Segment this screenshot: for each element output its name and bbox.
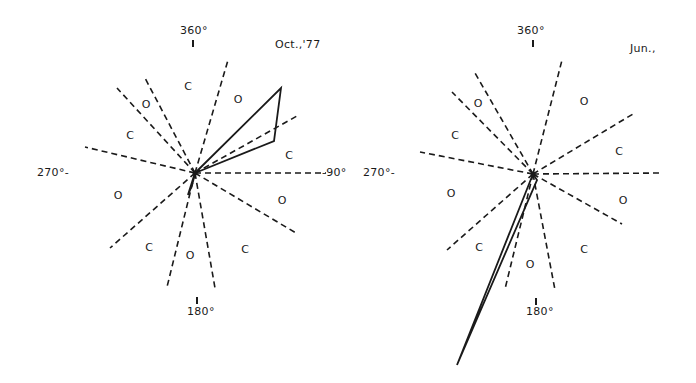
right-sector-label: O xyxy=(526,258,535,271)
left-east-label: -90° xyxy=(322,166,347,179)
right-sector-boundary-3 xyxy=(420,152,533,174)
left-sector-boundary-7 xyxy=(195,173,215,288)
right-sector-label: C xyxy=(475,241,483,254)
rose-diagram-canvas xyxy=(0,0,696,383)
left-sector-label: C xyxy=(184,80,192,93)
right-sector-boundary-7 xyxy=(533,174,555,290)
left-south-label: 180° xyxy=(187,305,215,318)
left-sector-label: O xyxy=(142,98,151,111)
left-sector-label: C xyxy=(145,241,153,254)
right-sector-boundary-9 xyxy=(447,174,533,250)
right-south-tick xyxy=(535,298,537,305)
right-sector-label: O xyxy=(474,97,483,110)
left-sector-label: O xyxy=(278,194,287,207)
left-north-tick xyxy=(192,40,194,47)
left-sector-label: C xyxy=(285,149,293,162)
right-panel-title: Jun., xyxy=(630,42,656,55)
left-sector-boundary-4 xyxy=(195,116,297,173)
left-panel-title: Oct.,'77 xyxy=(275,38,320,51)
left-sector-label: O xyxy=(234,93,243,106)
right-sector-boundary-5 xyxy=(533,173,662,174)
left-sector-label: C xyxy=(241,243,249,256)
right-sector-label: O xyxy=(447,187,456,200)
right-sector-boundary-6 xyxy=(533,174,622,224)
left-sector-label: O xyxy=(114,189,123,202)
right-sector-label: C xyxy=(615,145,623,158)
left-south-tick xyxy=(196,297,198,304)
right-sector-boundary-0 xyxy=(533,60,562,174)
right-sector-label: C xyxy=(580,243,588,256)
right-south-label: 180° xyxy=(526,305,554,318)
left-north-label: 360° xyxy=(180,24,208,37)
right-north-label: 360° xyxy=(517,24,545,37)
right-west-label: 270°- xyxy=(363,166,395,179)
right-north-tick xyxy=(532,40,534,47)
left-center-point xyxy=(193,171,198,176)
left-sector-label: C xyxy=(126,129,134,142)
right-sector-label: O xyxy=(580,95,589,108)
left-west-label: 270°- xyxy=(37,166,69,179)
left-sector-boundary-9 xyxy=(110,173,195,248)
right-center-point xyxy=(531,172,536,177)
right-sector-label: O xyxy=(619,194,628,207)
left-sector-boundary-3 xyxy=(85,147,195,173)
right-sector-label: C xyxy=(451,129,459,142)
left-sector-label: O xyxy=(186,249,195,262)
